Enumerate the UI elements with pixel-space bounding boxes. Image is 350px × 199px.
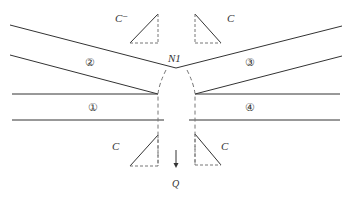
slope-triangle-top-left	[130, 14, 158, 43]
flow-arrow-down-icon	[174, 150, 179, 168]
slope-triangle-bottom-left	[130, 135, 158, 166]
junction-left-dashed-boundary	[158, 70, 166, 165]
slope-triangle-bottom-right	[195, 134, 221, 165]
node-label: N1	[167, 52, 181, 64]
corner-label-bottom-left: C	[112, 140, 120, 152]
stream-label-1: ①	[88, 101, 98, 113]
stream-label-3: ③	[245, 56, 255, 68]
slope-triangle-top-right	[195, 14, 221, 43]
channel-junction-diagram: N1 Q ① ② ③ ④ C⁻ C C C	[0, 0, 350, 199]
corner-label-bottom-right: C	[221, 140, 229, 152]
corner-label-top-left: C⁻	[115, 12, 128, 24]
stream-label-4: ④	[245, 101, 255, 113]
flow-label: Q	[172, 178, 180, 189]
channel-3-upper-edge	[176, 26, 342, 68]
stream-label-2: ②	[85, 56, 95, 68]
corner-label-top-right: C	[227, 12, 235, 24]
channel-2-lower-edge	[10, 55, 158, 94]
channel-3-lower-edge	[195, 56, 342, 94]
junction-right-dashed-boundary	[187, 70, 195, 165]
